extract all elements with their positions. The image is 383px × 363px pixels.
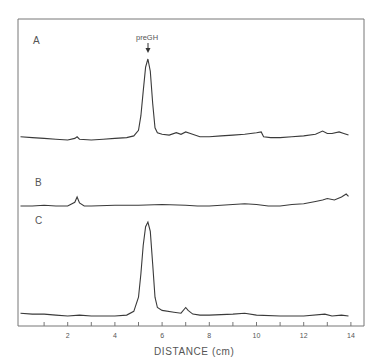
x-tick-label: 14 xyxy=(347,332,355,339)
x-tick-label: 4 xyxy=(113,332,117,339)
x-tick-label: 10 xyxy=(253,332,261,339)
plot-frame xyxy=(18,19,364,326)
x-axis-tick-labels: 2468101214 xyxy=(66,332,355,339)
trace-c-label: C xyxy=(35,215,42,226)
x-axis-ticks xyxy=(44,322,351,326)
trace-b-line xyxy=(21,194,349,206)
trace-a-line xyxy=(21,59,349,140)
x-tick-label: 6 xyxy=(160,332,164,339)
trace-a-label: A xyxy=(33,35,40,46)
x-tick-label: 8 xyxy=(207,332,211,339)
trace-b-label: B xyxy=(35,177,42,188)
x-axis-label: DISTANCE (cm) xyxy=(154,346,234,357)
x-tick-label: 12 xyxy=(300,332,308,339)
trace-c-line xyxy=(21,222,349,316)
pregh-annotation-label: preGH xyxy=(136,33,158,42)
densitometer-scan-chart: 2468101214 A B C preGH DISTANCE (cm) xyxy=(0,0,383,363)
down-arrow-icon xyxy=(146,43,151,53)
x-tick-label: 2 xyxy=(66,332,70,339)
